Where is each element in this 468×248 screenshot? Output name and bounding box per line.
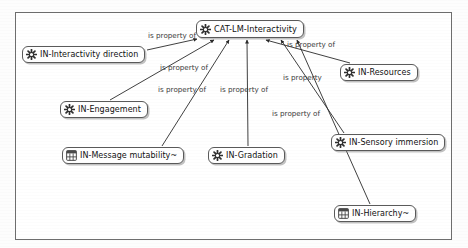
node-in-message-mutability[interactable]: IN-Message mutability~ [62,147,184,164]
edge-label: is property of [148,31,196,40]
edge-lines [110,39,370,204]
gear-icon [200,24,211,35]
diagram-stage: is property ofis property ofis property … [0,0,468,248]
node-in-interactivity-direction[interactable]: IN-Interactivity direction [22,46,145,63]
gear-icon [335,137,346,148]
table-icon [66,150,77,161]
edge-label: is property of [272,109,320,118]
edge-in-interactivity-direction-to-cat-lm-interactivity [147,39,197,50]
node-in-gradation[interactable]: IN-Gradation [208,147,285,164]
node-cat-lm-interactivity[interactable]: CAT-LM-Interactivity [196,20,304,38]
node-in-resources[interactable]: IN-Resources [340,64,418,81]
node-label: IN-Sensory immersion [349,139,438,147]
node-label: IN-Hierarchy~ [352,210,409,218]
gear-icon [26,49,37,60]
node-label: CAT-LM-Interactivity [214,25,297,33]
node-label: IN-Message mutability~ [80,152,177,160]
edge-in-sensory-immersion-to-cat-lm-interactivity [281,40,344,133]
edge-label: is property [283,73,323,82]
node-label: IN-Engagement [78,106,141,114]
edge-label: is property of [287,40,335,49]
edge-label: is property of [158,85,206,94]
gear-icon [64,104,75,115]
edge-label: is property of [220,85,268,94]
gear-icon [212,150,223,161]
node-in-hierarchy[interactable]: IN-Hierarchy~ [334,205,416,222]
table-icon [338,208,349,219]
node-label: IN-Interactivity direction [40,51,138,59]
gear-icon [344,67,355,78]
node-label: IN-Resources [358,69,411,77]
node-in-sensory-immersion[interactable]: IN-Sensory immersion [331,134,445,151]
edge-label: is property of [160,63,208,72]
node-label: IN-Gradation [226,152,278,160]
node-in-engagement[interactable]: IN-Engagement [60,101,148,118]
